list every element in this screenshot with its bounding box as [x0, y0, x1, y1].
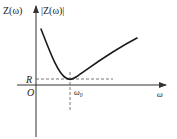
y-axis-label-left: Z(ω) [3, 5, 22, 17]
origin-label: O [27, 87, 34, 98]
x-axis-label: ω [157, 90, 163, 99]
y-axis-label-right: |Z(ω)| [41, 5, 64, 17]
impedance-curve [41, 29, 137, 79]
resistance-label: R [25, 74, 32, 85]
resonance-label: ω0 [74, 88, 83, 98]
impedance-diagram: Z(ω) |Z(ω)| R O ω0 ω [0, 0, 177, 139]
